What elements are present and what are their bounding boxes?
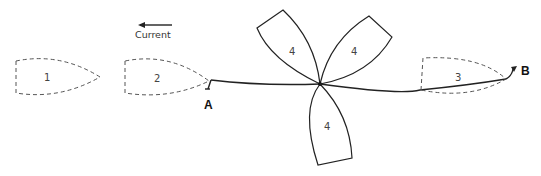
point-b-label: B — [521, 64, 530, 78]
boat-4a: 4 — [257, 10, 320, 84]
boat-4a-label: 4 — [289, 46, 295, 57]
current-label: Current — [135, 29, 171, 40]
anchor-rode-a — [211, 80, 320, 85]
boat-1: 1 — [16, 59, 100, 95]
boat-2-label: 2 — [154, 73, 160, 84]
current-arrow-icon — [138, 22, 172, 28]
boat-3: 3 — [421, 58, 506, 94]
boat-4b-label: 4 — [351, 46, 357, 57]
boat-2: 2 — [125, 59, 209, 95]
anchor-b-icon — [506, 66, 517, 79]
boat-4b: 4 — [320, 16, 392, 84]
boat-1-label: 1 — [44, 72, 50, 83]
boat-3-label: 3 — [455, 72, 461, 83]
anchoring-diagram: Current 1 2 A 4 4 4 3 — [0, 0, 541, 176]
boat-4c-label: 4 — [324, 121, 330, 132]
boat-4c: 4 — [309, 84, 352, 165]
anchor-a-icon — [205, 80, 211, 89]
point-a-label: A — [204, 98, 213, 112]
